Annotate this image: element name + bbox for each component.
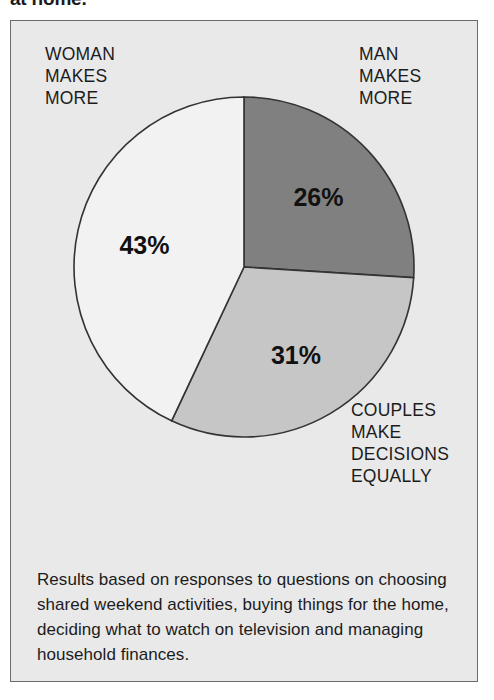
callout-couples-line-3: DECISIONS bbox=[351, 443, 449, 465]
pie-slice-group bbox=[74, 97, 414, 437]
page-title: at home. bbox=[10, 0, 87, 10]
pie-label-group: 26%31%43% bbox=[119, 183, 343, 369]
callout-man-line-1: MAN bbox=[359, 43, 421, 65]
pie-slice bbox=[244, 97, 414, 278]
callout-couples-make-decisions-equally: COUPLES MAKE DECISIONS EQUALLY bbox=[351, 399, 449, 487]
pie-slice-value: 31% bbox=[271, 341, 321, 369]
callout-couples-line-1: COUPLES bbox=[351, 399, 449, 421]
callout-man-line-3: MORE bbox=[359, 87, 421, 109]
pie-slice-value: 26% bbox=[293, 183, 343, 211]
pie-slice-value: 43% bbox=[119, 231, 169, 259]
chart-page: at home. WOMAN MAKES MORE MAN MAKES MORE… bbox=[0, 0, 494, 700]
callout-man-makes-more: MAN MAKES MORE bbox=[359, 43, 421, 109]
callout-woman-line-3: MORE bbox=[45, 87, 115, 109]
callout-woman-line-2: MAKES bbox=[45, 65, 115, 87]
chart-footnote: Results based on responses to questions … bbox=[37, 567, 457, 667]
pie-slice bbox=[74, 97, 244, 421]
callout-couples-line-2: MAKE bbox=[351, 421, 449, 443]
callout-woman-line-1: WOMAN bbox=[45, 43, 115, 65]
callout-woman-makes-more: WOMAN MAKES MORE bbox=[45, 43, 115, 109]
callout-couples-line-4: EQUALLY bbox=[351, 465, 449, 487]
chart-panel: WOMAN MAKES MORE MAN MAKES MORE COUPLES … bbox=[10, 20, 478, 682]
callout-man-line-2: MAKES bbox=[359, 65, 421, 87]
